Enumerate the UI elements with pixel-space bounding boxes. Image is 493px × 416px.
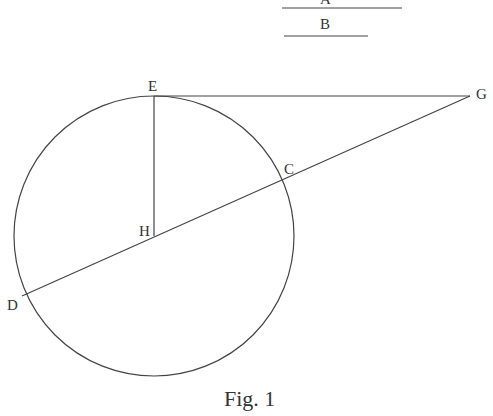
- label-e: E: [148, 79, 157, 94]
- label-c: C: [284, 162, 294, 177]
- label-a: A: [320, 0, 331, 7]
- label-b: B: [320, 17, 330, 32]
- label-g: G: [476, 87, 487, 102]
- figure-caption: Fig. 1: [224, 388, 275, 410]
- label-h: H: [139, 224, 150, 239]
- geometry-figure: [0, 0, 493, 416]
- label-d: D: [7, 298, 18, 313]
- secant-dg: [22, 96, 470, 296]
